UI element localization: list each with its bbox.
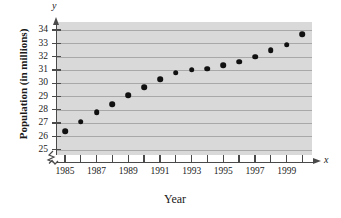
gridline bbox=[57, 123, 312, 124]
data-point bbox=[173, 70, 179, 76]
y-axis-tick bbox=[52, 96, 61, 97]
data-point bbox=[284, 42, 290, 48]
data-point bbox=[94, 110, 100, 116]
x-axis-tick bbox=[191, 155, 192, 162]
x-axis-tick bbox=[96, 155, 97, 162]
data-point bbox=[78, 119, 84, 125]
x-axis-tick bbox=[128, 155, 129, 162]
data-point bbox=[157, 76, 163, 82]
x-axis-symbol: x bbox=[324, 154, 328, 165]
y-axis-tick bbox=[52, 69, 61, 70]
x-axis-tick bbox=[159, 155, 160, 162]
gridline bbox=[57, 70, 312, 71]
gridline bbox=[57, 83, 312, 84]
y-axis-tick-label: 25 bbox=[26, 145, 48, 154]
data-point bbox=[62, 128, 68, 134]
x-axis-tick-label: 1985 bbox=[48, 166, 82, 176]
x-axis-tick bbox=[143, 155, 144, 162]
y-axis-tick-label: 32 bbox=[26, 52, 48, 61]
data-point bbox=[110, 102, 116, 108]
y-axis-tick-label: 31 bbox=[26, 65, 48, 74]
data-point bbox=[220, 62, 226, 68]
x-axis-tick bbox=[254, 155, 255, 162]
y-axis-arrowhead bbox=[53, 17, 59, 25]
y-axis-tick-label: 29 bbox=[26, 92, 48, 101]
data-point bbox=[141, 84, 147, 90]
gridline bbox=[57, 30, 312, 31]
x-axis-tick bbox=[112, 155, 113, 162]
x-axis-tick bbox=[80, 155, 81, 162]
x-axis-tick bbox=[286, 155, 287, 162]
y-axis-tick bbox=[52, 43, 61, 44]
x-axis-tick-label: 1989 bbox=[111, 166, 145, 176]
y-axis-tick bbox=[52, 149, 61, 150]
data-point bbox=[252, 54, 258, 60]
y-axis-tick bbox=[52, 83, 61, 84]
y-axis-tick-label: 26 bbox=[26, 132, 48, 141]
y-axis-tick-label: 28 bbox=[26, 105, 48, 114]
x-axis-tick bbox=[270, 155, 271, 162]
x-axis-tick-label: 1987 bbox=[80, 166, 114, 176]
gridline bbox=[57, 136, 312, 137]
x-axis-arrowhead bbox=[313, 158, 321, 164]
y-axis-tick bbox=[52, 56, 61, 57]
data-point bbox=[268, 47, 274, 53]
y-axis-symbol: y bbox=[52, 0, 56, 11]
data-point bbox=[189, 67, 195, 73]
y-axis-tick-label: 33 bbox=[26, 39, 48, 48]
y-axis-tick bbox=[52, 136, 61, 137]
y-axis-tick bbox=[52, 29, 61, 30]
y-axis-tick-label: 27 bbox=[26, 118, 48, 127]
x-axis-tick-label: 1993 bbox=[175, 166, 209, 176]
x-axis-tick-label: 1991 bbox=[143, 166, 177, 176]
x-axis-tick-label: 1995 bbox=[206, 166, 240, 176]
y-axis-tick bbox=[52, 122, 61, 123]
x-axis-tick-label: 1997 bbox=[238, 166, 272, 176]
x-axis-line bbox=[56, 162, 314, 163]
data-point bbox=[125, 92, 131, 98]
x-axis-tick bbox=[175, 155, 176, 162]
y-axis-tick-label: 30 bbox=[26, 78, 48, 87]
x-axis-tick bbox=[223, 155, 224, 162]
data-point bbox=[236, 59, 242, 65]
data-point bbox=[205, 66, 211, 72]
y-axis-tick bbox=[52, 109, 61, 110]
gridline bbox=[57, 57, 312, 58]
gridline bbox=[57, 96, 312, 97]
x-axis-tick bbox=[302, 155, 303, 162]
x-axis-tick bbox=[207, 155, 208, 162]
gridline bbox=[57, 150, 312, 151]
x-axis-title: Year bbox=[130, 192, 220, 207]
x-axis-tick-label: 1999 bbox=[270, 166, 304, 176]
data-point bbox=[300, 31, 306, 37]
scatter-plot-figure: y x Population (in millions) Year 252627… bbox=[0, 0, 341, 218]
x-axis-tick bbox=[238, 155, 239, 162]
plot-area bbox=[57, 22, 312, 155]
gridline bbox=[57, 43, 312, 44]
x-axis-tick bbox=[64, 155, 65, 162]
y-axis-tick-label: 34 bbox=[26, 25, 48, 34]
